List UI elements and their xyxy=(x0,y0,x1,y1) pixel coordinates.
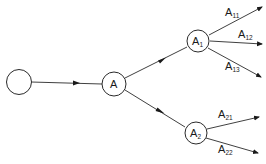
leaf-label-a12: A 12 xyxy=(238,28,253,41)
node-a: A xyxy=(102,72,126,96)
node-a1-subscript: 1 xyxy=(200,41,204,48)
leaf-label-a21: A 21 xyxy=(218,108,233,121)
node-a-label: A xyxy=(110,78,118,90)
svg-text:11: 11 xyxy=(233,12,240,19)
edge-a-to-a1 xyxy=(125,47,187,78)
svg-text:12: 12 xyxy=(246,34,254,41)
node-a2-subscript: 2 xyxy=(198,133,202,140)
arrow-head-icon xyxy=(156,108,165,114)
leaf-label-a11: A 11 xyxy=(225,6,240,19)
edge-root-to-a xyxy=(31,81,102,86)
edge-a1-to-a12 xyxy=(210,41,262,44)
svg-text:21: 21 xyxy=(226,114,234,121)
arrow-head-icon xyxy=(158,58,166,64)
node-a2: A 2 xyxy=(185,122,207,144)
tree-diagram: A A 1 A 2 A 11 A 12 A 13 A 21 A 22 xyxy=(0,0,266,164)
edge-a2-to-a21 xyxy=(207,117,259,129)
arrow-head-icon xyxy=(73,81,80,86)
node-a1: A 1 xyxy=(187,30,209,52)
svg-text:13: 13 xyxy=(233,66,241,73)
svg-text:22: 22 xyxy=(226,149,234,156)
node-root xyxy=(7,70,32,95)
edge-a-to-a2 xyxy=(125,90,185,127)
